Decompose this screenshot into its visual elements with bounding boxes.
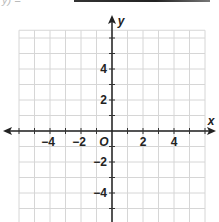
y-tick-label: −4 xyxy=(93,186,107,200)
y-tick-label: −2 xyxy=(93,155,107,169)
origin-label: O xyxy=(99,135,109,149)
y-tick-label: 2 xyxy=(100,93,107,107)
x-tick-label: 4 xyxy=(171,135,178,149)
x-axis-label: x xyxy=(207,114,216,128)
y-tick-label: 4 xyxy=(100,62,107,76)
x-tick-label: 2 xyxy=(140,135,147,149)
y-axis-label: y xyxy=(117,14,126,28)
coordinate-plane: −4−22442−2−4Oxy xyxy=(0,0,219,222)
x-tick-label: −2 xyxy=(72,135,86,149)
x-tick-label: −4 xyxy=(41,135,55,149)
